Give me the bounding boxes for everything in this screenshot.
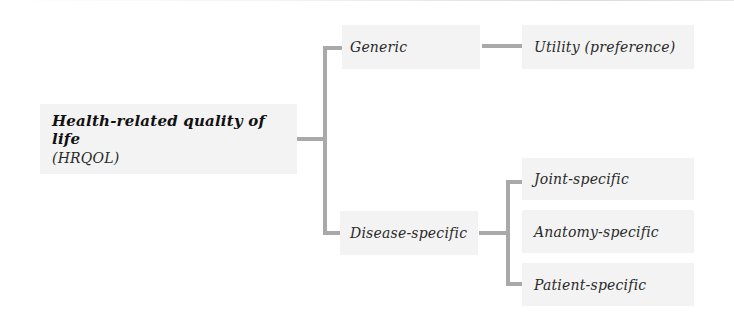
connector-level2-vertical (506, 180, 510, 286)
node-hrqol-title: Health-related quality of life (52, 112, 297, 148)
node-hrqol: Health-related quality of life (HRQOL) (40, 104, 297, 174)
node-disease-specific: Disease-specific (340, 211, 478, 255)
top-border-line (0, 0, 734, 1)
node-anatomy-specific: Anatomy-specific (522, 210, 694, 253)
connector-level1-vertical (323, 46, 327, 235)
node-joint-specific: Joint-specific (522, 158, 694, 200)
node-joint-specific-label: Joint-specific (534, 171, 629, 187)
node-disease-specific-label: Disease-specific (350, 225, 467, 241)
node-utility: Utility (preference) (522, 25, 694, 69)
connector-generic-tick (323, 46, 342, 50)
node-utility-label: Utility (preference) (534, 39, 675, 55)
connector-generic-utility (482, 44, 522, 48)
node-generic-label: Generic (350, 39, 407, 55)
connector-joint-tick (506, 180, 523, 184)
node-anatomy-specific-label: Anatomy-specific (534, 224, 659, 240)
node-patient-specific: Patient-specific (522, 263, 694, 306)
connector-disease-horizontal (479, 231, 509, 235)
connector-patient-tick (506, 282, 523, 286)
node-generic: Generic (342, 25, 480, 69)
node-patient-specific-label: Patient-specific (534, 277, 646, 293)
node-hrqol-subtitle: (HRQOL) (52, 150, 119, 166)
